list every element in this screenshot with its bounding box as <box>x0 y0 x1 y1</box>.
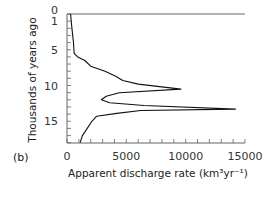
x-axis-title: Apparent discharge rate (km³yr⁻¹) <box>68 167 248 179</box>
discharge-chart: 050001000015000 0151015 Apparent dischar… <box>0 0 275 197</box>
y-tick-label: 5 <box>51 44 58 57</box>
y-axis-tick-labels: 0151015 <box>44 4 58 128</box>
y-tick-label: 1 <box>51 15 58 28</box>
x-tick-label: 0 <box>64 150 71 163</box>
discharge-curve <box>71 14 236 143</box>
y-tick-label: 15 <box>44 115 58 128</box>
y-axis-ticks <box>67 14 71 143</box>
x-tick-label: 10000 <box>168 150 203 163</box>
x-tick-label: 15000 <box>228 150 263 163</box>
panel-label: (b) <box>13 151 29 164</box>
x-tick-label: 5000 <box>112 150 140 163</box>
plot-frame <box>67 14 245 143</box>
y-tick-label: 10 <box>44 80 58 93</box>
x-axis-tick-labels: 050001000015000 <box>64 150 263 163</box>
x-axis-ticks <box>67 139 245 143</box>
y-axis-title: Thousands of years ago <box>26 17 38 143</box>
